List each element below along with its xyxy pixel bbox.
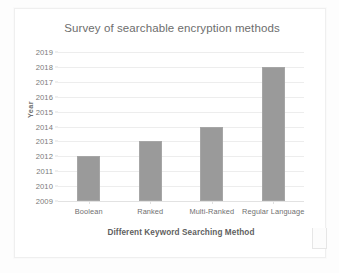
y-tick-label: 2018 <box>36 62 53 71</box>
x-tick-label: Ranked <box>137 207 163 216</box>
x-tick-mark <box>150 201 151 204</box>
plot-area: 2019201820172016201520142013201220112010… <box>58 52 304 201</box>
x-tick-label: Boolean <box>75 207 103 216</box>
y-tick-label: 2011 <box>36 167 53 176</box>
x-tick-label: Multi-Ranked <box>189 207 234 216</box>
x-tick-label: Regular Language <box>242 207 304 216</box>
bar <box>139 141 162 201</box>
y-tick-mark <box>55 141 58 142</box>
y-tick-label: 2015 <box>36 107 53 116</box>
chart-figure: Survey of searchable encryption methods … <box>0 0 339 273</box>
y-tick-mark <box>55 81 58 82</box>
y-tick-mark <box>55 96 58 97</box>
y-tick-mark <box>55 126 58 127</box>
gridline <box>58 201 304 202</box>
chart-title: Survey of searchable encryption methods <box>42 22 302 34</box>
y-tick-mark <box>55 186 58 187</box>
gridline <box>58 52 304 53</box>
y-tick-mark <box>55 201 58 202</box>
y-tick-label: 2019 <box>36 48 53 57</box>
y-tick-mark <box>55 52 58 53</box>
bar <box>77 156 100 201</box>
y-tick-label: 2017 <box>36 77 53 86</box>
y-tick-label: 2009 <box>36 197 53 206</box>
bar <box>262 67 285 201</box>
x-axis-title: Different Keyword Searching Method <box>58 228 304 237</box>
x-tick-mark <box>273 201 274 204</box>
y-tick-mark <box>55 171 58 172</box>
y-tick-mark <box>55 66 58 67</box>
y-tick-mark <box>55 156 58 157</box>
scan-artifact-corner <box>312 228 327 249</box>
y-tick-label: 2010 <box>36 182 53 191</box>
y-axis-title: Year <box>26 101 35 118</box>
y-tick-mark <box>55 111 58 112</box>
x-tick-mark <box>89 201 90 204</box>
y-tick-label: 2016 <box>36 92 53 101</box>
y-tick-label: 2012 <box>36 152 53 161</box>
y-tick-label: 2014 <box>36 122 53 131</box>
bar <box>200 127 223 202</box>
y-tick-label: 2013 <box>36 137 53 146</box>
x-tick-mark <box>212 201 213 204</box>
